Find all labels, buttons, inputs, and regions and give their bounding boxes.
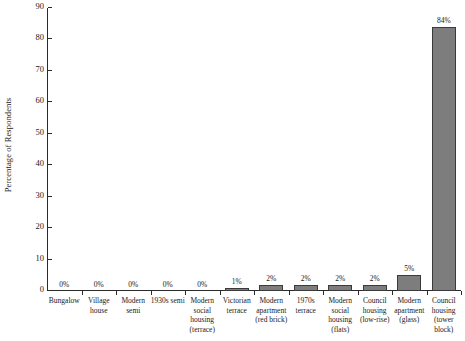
x-category-label: Village house [82, 296, 117, 315]
bar-value-label: 0% [59, 280, 69, 289]
bar-group: 1% [220, 8, 255, 291]
bar-value-label: 1% [232, 277, 242, 286]
x-category-label: Victorian terrace [220, 296, 255, 315]
bar [328, 285, 352, 291]
x-tick [358, 291, 359, 295]
bar-value-label: 0% [163, 280, 173, 289]
x-category-label: Bungalow [47, 296, 82, 306]
x-category-label: Modern semi [116, 296, 151, 315]
x-tick [323, 291, 324, 295]
y-tick-label: 50 [20, 127, 44, 138]
x-category-label: Modern social housing (flats) [323, 296, 358, 334]
bar-group: 0% [82, 8, 117, 291]
x-category-label: Council housing (tower block) [427, 296, 462, 334]
x-tick [254, 291, 255, 295]
bar-value-label: 0% [197, 280, 207, 289]
bar-group: 2% [254, 8, 289, 291]
bar-group: 2% [323, 8, 358, 291]
bar-value-label: 5% [404, 264, 414, 273]
bar-group: 2% [289, 8, 324, 291]
y-tick-label: 0 [20, 284, 44, 295]
bar-value-label: 2% [335, 274, 345, 283]
x-category-label: 1930s semi [151, 296, 186, 306]
x-tick [392, 291, 393, 295]
x-axis-category-labels: BungalowVillage houseModern semi1930s se… [47, 296, 461, 341]
x-tick [289, 291, 290, 295]
y-axis-title-text: Percentage of Respondents [3, 98, 13, 193]
y-tick-label: 70 [20, 64, 44, 75]
bar-group: 84% [427, 8, 462, 291]
bars-layer: 0%0%0%0%0%1%2%2%2%2%5%84% [47, 8, 461, 291]
y-tick-label: 60 [20, 95, 44, 106]
bar [432, 27, 456, 291]
x-category-label: Modern apartment (red brick) [254, 296, 289, 325]
bar-value-label: 84% [437, 16, 451, 25]
x-category-label: Modern apartment (glass) [392, 296, 427, 325]
bar [225, 288, 249, 291]
bar [294, 285, 318, 291]
bar-value-label: 2% [301, 274, 311, 283]
bar-value-label: 0% [128, 280, 138, 289]
bar-group: 2% [358, 8, 393, 291]
x-category-label: Modern social housing (terrace) [185, 296, 220, 334]
x-tick [116, 291, 117, 295]
x-tick [82, 291, 83, 295]
bar-group: 0% [151, 8, 186, 291]
bar-value-label: 0% [94, 280, 104, 289]
y-tick-label: 80 [20, 32, 44, 43]
x-category-label: Council housing (low-rise) [358, 296, 393, 325]
bar-group: 0% [116, 8, 151, 291]
bar [259, 285, 283, 291]
y-tick-label: 30 [20, 190, 44, 201]
bar-group: 0% [185, 8, 220, 291]
y-tick-label: 10 [20, 253, 44, 264]
x-tick [151, 291, 152, 295]
bar [363, 285, 387, 291]
bar-group: 0% [47, 8, 82, 291]
bar-value-label: 2% [370, 274, 380, 283]
plot-area: 0102030405060708090 0%0%0%0%0%1%2%2%2%2%… [47, 8, 461, 291]
bar-group: 5% [392, 8, 427, 291]
y-tick-label: 90 [20, 1, 44, 12]
bar-value-label: 2% [266, 274, 276, 283]
y-tick-label: 20 [20, 221, 44, 232]
bar-chart: Percentage of Respondents 01020304050607… [0, 0, 465, 341]
x-category-label: 1970s terrace [289, 296, 324, 315]
y-axis-title: Percentage of Respondents [0, 0, 16, 290]
bar [397, 275, 421, 291]
x-tick [220, 291, 221, 295]
x-tick [461, 291, 462, 295]
x-tick [185, 291, 186, 295]
x-tick [427, 291, 428, 295]
y-tick-label: 40 [20, 158, 44, 169]
